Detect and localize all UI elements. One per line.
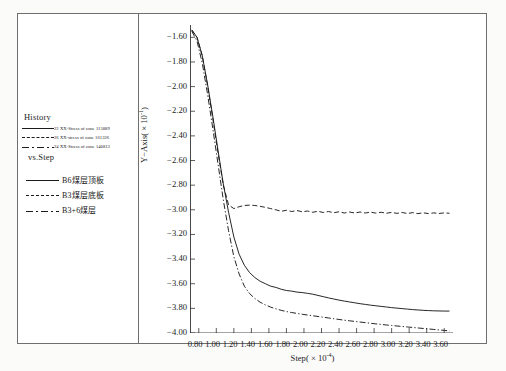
y-tick-label: −3.20 [147, 228, 187, 238]
y-tick-label: −1.80 [147, 56, 187, 66]
y-tick-label: −2.80 [147, 179, 187, 189]
y-tick-label: −3.60 [147, 278, 187, 288]
x-tick-label: 2.00 [293, 339, 308, 349]
legend-series-label: B3煤层底板 [62, 189, 104, 200]
x-tick-label: 1.60 [258, 339, 273, 349]
x-tick-label: 3.60 [433, 339, 448, 349]
x-tick-label: 2.40 [328, 339, 343, 349]
x-tick-label: 3.20 [398, 339, 413, 349]
line-style-dashed-icon [22, 134, 54, 140]
x-axis-title-text: Step( × 10 [291, 353, 327, 363]
y-tick-label: −3.40 [147, 253, 187, 263]
x-tick-label: 2.20 [311, 339, 326, 349]
legend-series-item: B3+6煤层 [22, 203, 136, 216]
y-tick-label: −4.00 [147, 327, 187, 337]
chart-canvas [190, 25, 453, 333]
x-tick-label: 3.40 [416, 339, 431, 349]
x-tick-label: 2.60 [346, 339, 361, 349]
x-axis-title-tail: ) [332, 353, 335, 363]
legend-history-label: 24 XX-Stress of zone 140813 [54, 143, 110, 148]
line-style-solid-icon [26, 176, 59, 184]
y-tick-label: −1.60 [147, 31, 187, 41]
legend-series-label: B6煤层顶板 [62, 174, 104, 185]
legend-vs-step-label: vs.Step [28, 152, 136, 162]
legend-history-item: 22 XX-Stress of zone 115889 [22, 124, 136, 132]
line-style-solid-icon [22, 125, 54, 131]
x-axis-title: Step( × 10-4) [139, 352, 486, 363]
y-tick-label: −2.00 [147, 81, 187, 91]
line-style-dashdot-icon [22, 143, 54, 149]
plot-area [190, 25, 453, 333]
series-line [192, 30, 450, 311]
x-tick-label: 0.80 [188, 339, 203, 349]
y-tick-label: −3.00 [147, 204, 187, 214]
chart-screenshot: History 22 XX-Stress of zone 115889 26 X… [0, 0, 506, 371]
y-tick-label: −3.80 [147, 302, 187, 312]
x-tick-label: 1.40 [240, 339, 255, 349]
x-tick-label: 1.80 [275, 339, 290, 349]
legend-history-label: 26 XX-stress of zone 161326 [54, 134, 109, 139]
legend-series-label: B3+6煤层 [62, 204, 96, 215]
y-axis-title-exponent: -1 [138, 110, 144, 115]
legend-history-item: 26 XX-stress of zone 161326 [22, 133, 136, 141]
x-tick-label: 1.20 [223, 339, 238, 349]
plot-panel: Y−Axis( × 10-1) −1.60−1.80−2.00−2.20−2.4… [139, 13, 486, 344]
x-tick-label: 3.00 [381, 339, 396, 349]
legend-series-list: B6煤层顶板 B3煤层底板 B3+6煤层 [22, 173, 136, 216]
legend-series-item: B3煤层底板 [22, 188, 136, 201]
y-tick-label: −2.60 [147, 155, 187, 165]
legend-history-label: 22 XX-Stress of zone 115889 [54, 125, 110, 130]
line-style-dashed-icon [26, 191, 59, 199]
y-tick-label: −2.40 [147, 130, 187, 140]
line-style-dashdot-icon [26, 206, 59, 214]
x-tick-label: 1.00 [205, 339, 220, 349]
series-line [192, 30, 450, 214]
legend-series-item: B6煤层顶板 [22, 173, 136, 186]
x-tick-label: 2.80 [363, 339, 378, 349]
legend-history-title: History [24, 112, 136, 122]
y-tick-label: −2.20 [147, 105, 187, 115]
legend-history-item: 24 XX-Stress of zone 140813 [22, 142, 136, 150]
legend-panel: History 22 XX-Stress of zone 115889 26 X… [22, 112, 136, 218]
series-line [192, 31, 450, 331]
